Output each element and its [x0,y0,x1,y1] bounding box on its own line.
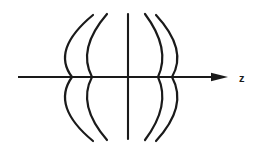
figure-canvas: z [0,0,259,155]
wavefront-diagram: z [0,0,259,155]
z-axis-label: z [239,72,245,84]
axis-group [18,73,228,81]
arrowhead-icon [211,73,228,81]
